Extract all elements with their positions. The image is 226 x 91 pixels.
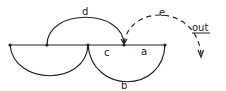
edge-b-arc: [88, 45, 165, 82]
arc-diagram: d e out c a b: [0, 0, 226, 91]
label-c: c: [104, 47, 110, 58]
label-b: b: [121, 80, 127, 91]
label-a: a: [141, 46, 147, 57]
label-e: e: [159, 7, 165, 18]
label-out: out: [192, 22, 208, 33]
node-2: [45, 43, 48, 46]
edge-d-arc: [47, 17, 124, 45]
label-d: d: [82, 6, 88, 17]
node-1: [8, 43, 11, 46]
node-5: [163, 43, 166, 46]
node-3: [86, 43, 89, 46]
node-4: [122, 43, 125, 46]
edge-left-lower-arc: [10, 45, 88, 76]
edge-e-dashed-arc: [124, 15, 201, 54]
